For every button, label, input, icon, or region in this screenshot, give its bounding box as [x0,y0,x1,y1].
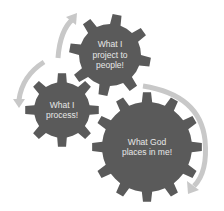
gear-label-project: What Iproject topeople! [79,39,141,71]
gear-label-line: people! [79,60,141,71]
gear-label-line: What I [79,39,141,50]
arrowhead-down-left-icon [13,99,25,108]
gear-label-line: places in me! [102,147,192,158]
gear-label-god: What Godplaces in me! [102,137,192,158]
gear-label-line: What I [34,100,90,111]
gear-label-process: What Iprocess! [34,100,90,121]
gear-label-line: What God [102,137,192,148]
gear-label-line: project to [79,50,141,61]
gear-label-line: process! [34,110,90,121]
